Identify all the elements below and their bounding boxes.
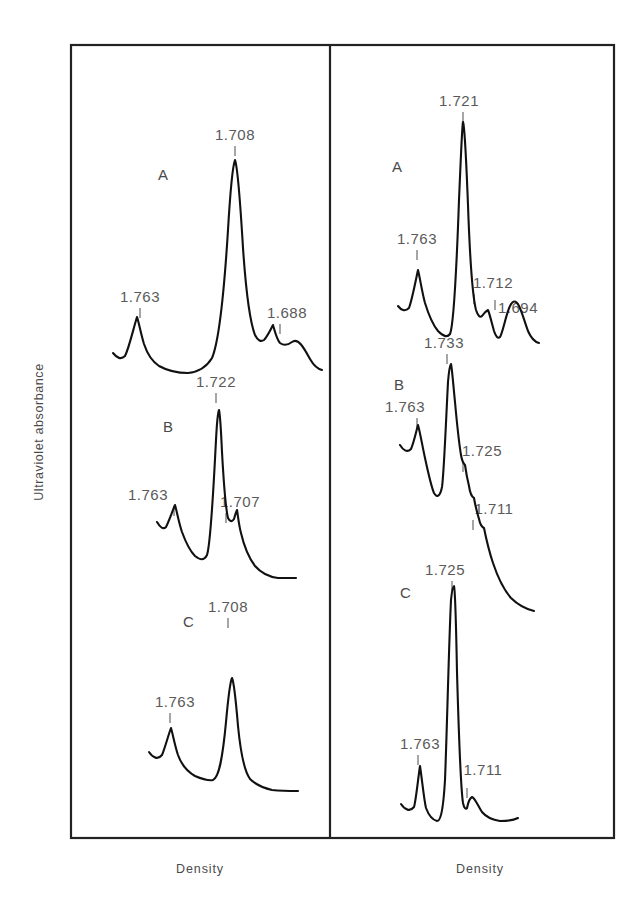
- peak-label-left-C-1708: 1.708: [208, 598, 248, 615]
- panel-letter-right-A: A: [392, 158, 402, 175]
- peak-label-left-A-1708: 1.708: [215, 126, 255, 143]
- panel-left-B: B 1.763 1.722 1.707: [128, 373, 296, 578]
- panel-left-A: A 1.763 1.708 1.688: [113, 126, 322, 373]
- peak-label-right-B-1733: 1.733: [424, 334, 464, 351]
- panel-right-A: A 1.763 1.721 1.712 1.694: [392, 92, 539, 343]
- peak-label-left-A-1688: 1.688: [267, 304, 307, 321]
- x-axis-label-left: Density: [120, 862, 280, 876]
- peak-label-right-C-1711: 1.711: [464, 761, 503, 778]
- peak-label-left-C-1763: 1.763: [155, 693, 195, 710]
- panel-letter-right-B: B: [394, 376, 404, 393]
- x-axis-label-right: Density: [400, 862, 560, 876]
- peak-label-right-B-1725: 1.725: [462, 442, 502, 459]
- figure-root: Ultraviolet absorbance Density Density A…: [0, 0, 635, 906]
- trace-right-C: [401, 586, 518, 821]
- panel-letter-right-C: C: [400, 584, 411, 601]
- trace-left-A: [113, 160, 322, 373]
- panel-letter-left-C: C: [183, 613, 194, 630]
- density-gradient-scan-figure: A 1.763 1.708 1.688 B 1.763 1.722 1.707 …: [0, 0, 635, 906]
- panel-right-C: C 1.725 1.763 1.711: [400, 561, 518, 821]
- panel-letter-left-A: A: [158, 166, 168, 183]
- peak-label-right-C-1725: 1.725: [425, 561, 465, 578]
- peak-label-left-A-1763: 1.763: [120, 288, 160, 305]
- peak-label-right-B-1711: 1.711: [475, 500, 514, 517]
- panel-left-C: C 1.763 1.708: [149, 598, 298, 791]
- peak-label-right-A-1694: 1.694: [498, 299, 538, 316]
- peak-label-right-A-1712: 1.712: [473, 274, 513, 291]
- y-axis-label: Ultraviolet absorbance: [32, 317, 46, 547]
- peak-label-right-B-1763: 1.763: [385, 398, 425, 415]
- peak-label-left-B-1722: 1.722: [196, 373, 236, 390]
- peak-label-right-A-1721: 1.721: [439, 92, 479, 109]
- figure-frame: [71, 45, 614, 838]
- peak-label-right-C-1763: 1.763: [400, 735, 440, 752]
- panel-letter-left-B: B: [163, 418, 173, 435]
- peak-label-left-B-1763: 1.763: [128, 486, 168, 503]
- peak-label-right-A-1763: 1.763: [397, 230, 437, 247]
